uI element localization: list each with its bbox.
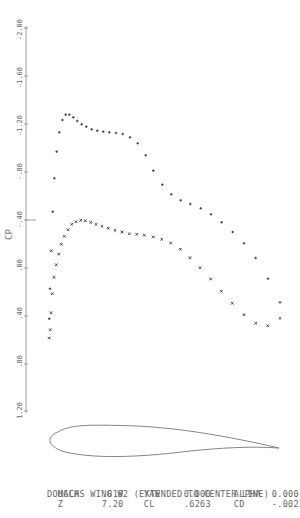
cl-value: .6263 xyxy=(184,499,234,509)
upper-point-marker xyxy=(144,154,147,157)
upper-point-marker xyxy=(72,116,75,119)
lower-point-marker xyxy=(89,221,92,224)
y-tick-label: .80 xyxy=(16,355,24,368)
y-tick-label: -1.60 xyxy=(16,67,24,88)
lower-point-marker xyxy=(220,290,223,293)
lower-point-marker xyxy=(199,266,202,269)
lower-point-marker xyxy=(231,302,234,305)
lower-point-marker xyxy=(55,263,58,266)
lower-point-marker xyxy=(50,311,53,314)
upper-point-marker xyxy=(189,203,192,206)
upper-point-marker xyxy=(85,125,88,128)
upper-point-marker xyxy=(267,277,270,280)
upper-point-marker xyxy=(76,120,79,123)
upper-point-marker xyxy=(136,142,139,145)
upper-point-marker xyxy=(80,123,83,126)
upper-point-marker xyxy=(48,317,51,320)
lower-surface-series xyxy=(48,219,281,339)
lower-point-marker xyxy=(70,223,73,226)
lower-point-marker xyxy=(51,292,54,295)
lower-point-marker xyxy=(152,236,155,239)
lower-point-marker xyxy=(279,317,282,320)
lower-point-marker xyxy=(243,313,246,316)
upper-point-marker xyxy=(179,199,182,202)
upper-point-marker xyxy=(90,128,93,131)
upper-point-marker xyxy=(161,183,164,186)
y-tick-label: 1.20 xyxy=(16,402,24,419)
y-tick-label: -2.00 xyxy=(16,19,24,40)
lower-point-marker xyxy=(189,256,192,259)
lower-point-marker xyxy=(50,249,53,252)
lower-point-marker xyxy=(48,337,51,340)
upper-point-marker xyxy=(231,231,234,234)
lower-point-marker xyxy=(84,219,87,222)
upper-point-marker xyxy=(152,169,155,172)
y-tick-label: -1.20 xyxy=(16,115,24,136)
upper-point-marker xyxy=(243,242,246,245)
upper-point-marker xyxy=(170,193,173,196)
upper-point-marker xyxy=(61,119,64,122)
airfoil-outline xyxy=(50,425,279,456)
upper-point-marker xyxy=(121,133,124,136)
lower-point-marker xyxy=(57,253,60,256)
lower-point-marker xyxy=(143,234,146,237)
cd-value: -.0022 xyxy=(272,499,300,509)
lower-point-marker xyxy=(128,232,131,235)
upper-surface-series xyxy=(48,113,281,320)
upper-point-marker xyxy=(58,131,61,134)
upper-point-marker xyxy=(108,131,111,134)
cd-label: CD xyxy=(234,499,272,509)
lower-point-marker xyxy=(107,227,110,230)
case-row-2: Z7.20CL.6263CD-.0022 xyxy=(47,489,300,509)
upper-point-marker xyxy=(64,113,67,116)
upper-point-marker xyxy=(55,150,58,153)
lower-point-marker xyxy=(79,219,82,222)
lower-point-marker xyxy=(53,276,56,279)
lower-point-marker xyxy=(135,233,138,236)
upper-point-marker xyxy=(68,113,71,116)
lower-point-marker xyxy=(60,243,63,246)
y-axis-label: CP xyxy=(4,229,14,240)
cp-distribution-plot: -2.00-1.60-1.20-.80-.40.00.40.801.20 CP xyxy=(0,0,300,518)
lower-point-marker xyxy=(160,238,163,241)
lower-point-marker xyxy=(75,220,78,223)
upper-point-marker xyxy=(129,136,132,139)
lower-point-marker xyxy=(121,231,124,234)
y-tick-label: -.80 xyxy=(16,163,24,180)
upper-point-marker xyxy=(210,213,213,216)
lower-point-marker xyxy=(63,235,66,238)
lower-point-marker xyxy=(95,223,98,226)
lower-point-marker xyxy=(209,278,212,281)
lower-point-marker xyxy=(101,225,104,228)
y-tick-label: -.40 xyxy=(16,211,24,228)
lower-point-marker xyxy=(114,229,117,232)
lower-point-marker xyxy=(266,324,269,327)
y-axis: -2.00-1.60-1.20-.80-.40.00.40.801.20 xyxy=(16,19,36,419)
cl-label: CL xyxy=(144,499,184,509)
upper-point-marker xyxy=(199,207,202,210)
lower-point-marker xyxy=(49,328,52,331)
upper-point-marker xyxy=(96,129,99,132)
z-value: 7.20 xyxy=(102,499,144,509)
upper-point-marker xyxy=(115,132,118,135)
upper-point-marker xyxy=(279,301,282,304)
upper-point-marker xyxy=(53,177,56,180)
lower-point-marker xyxy=(169,242,172,245)
upper-point-marker xyxy=(51,210,54,213)
z-label: Z xyxy=(58,499,102,509)
y-tick-label: .00 xyxy=(16,259,24,272)
lower-point-marker xyxy=(254,322,257,325)
upper-point-marker xyxy=(220,221,223,224)
y-tick-label: .40 xyxy=(16,307,24,320)
upper-point-marker xyxy=(102,130,105,133)
lower-point-marker xyxy=(67,228,70,231)
upper-point-marker xyxy=(49,287,52,290)
lower-point-marker xyxy=(179,248,182,251)
upper-point-marker xyxy=(254,257,257,260)
